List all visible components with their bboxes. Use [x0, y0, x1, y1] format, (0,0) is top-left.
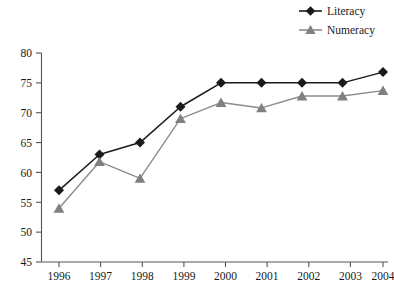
- x-tick-label: 2004: [372, 270, 394, 282]
- x-tick-label: 1996: [48, 270, 71, 282]
- x-axis-tick-labels: 1996 1997 1998 1999 2000 2001 2002 2003 …: [48, 270, 394, 282]
- y-tick-label: 55: [21, 197, 33, 209]
- x-tick-label: 1999: [172, 270, 195, 282]
- x-axis-ticks: [59, 262, 383, 267]
- data-point-numeracy-2000: [216, 98, 227, 107]
- y-tick-label: 65: [21, 137, 33, 149]
- y-tick-label: 50: [21, 226, 33, 238]
- data-series-layer: [54, 67, 389, 213]
- x-tick-label: 2001: [256, 270, 279, 282]
- data-point-numeracy-1999: [175, 114, 186, 123]
- chart-canvas: Literacy Numeracy: [0, 0, 394, 297]
- legend-entry-numeracy: Numeracy: [299, 24, 375, 37]
- line-chart: Literacy Numeracy: [0, 0, 394, 297]
- x-tick-label: 2003: [339, 270, 362, 282]
- y-tick-label: 70: [21, 107, 33, 119]
- data-point-literacy-2000: [216, 78, 226, 88]
- series-literacy: [54, 67, 388, 195]
- data-point-literacy-2002: [297, 78, 307, 88]
- data-point-numeracy-2004: [378, 86, 389, 95]
- x-tick-label: 2000: [214, 270, 237, 282]
- legend-label-numeracy: Numeracy: [327, 24, 375, 37]
- y-axis-tick-labels: 80 75 70 65 60 55 50 45: [21, 47, 33, 268]
- data-point-literacy-2003: [338, 78, 348, 88]
- y-tick-label: 60: [21, 167, 33, 179]
- series-numeracy: [54, 86, 389, 213]
- x-tick-label: 1998: [131, 270, 154, 282]
- y-axis-ticks: [36, 53, 42, 262]
- y-tick-label: 75: [21, 77, 33, 89]
- y-tick-label: 80: [21, 47, 33, 59]
- legend-marker-diamond-icon: [306, 6, 316, 16]
- legend-entry-literacy: Literacy: [299, 5, 366, 18]
- series-line-numeracy: [59, 91, 383, 209]
- y-tick-label: 45: [21, 256, 33, 268]
- series-line-literacy: [59, 72, 383, 190]
- x-tick-label: 2002: [297, 270, 320, 282]
- legend-label-literacy: Literacy: [327, 5, 366, 18]
- x-tick-label: 1997: [89, 270, 112, 282]
- data-point-literacy-2004: [378, 67, 388, 77]
- axes-group: [42, 53, 389, 262]
- chart-legend: Literacy Numeracy: [299, 5, 375, 37]
- data-point-numeracy-1998: [135, 173, 146, 182]
- data-point-literacy-2001: [257, 78, 267, 88]
